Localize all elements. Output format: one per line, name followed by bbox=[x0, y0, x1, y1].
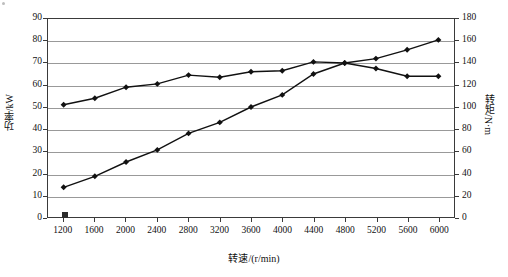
series-power bbox=[61, 37, 442, 190]
data-point-marker bbox=[342, 60, 348, 66]
data-point-marker bbox=[186, 130, 192, 136]
y2-axis-tick-label: 160 bbox=[462, 35, 492, 45]
y-axis-tick-mark bbox=[43, 218, 47, 219]
data-point-marker bbox=[435, 37, 441, 43]
y2-axis-tick-mark bbox=[455, 151, 459, 152]
data-point-marker bbox=[217, 74, 223, 80]
series-line bbox=[64, 40, 439, 187]
data-point-marker bbox=[404, 47, 410, 53]
x-axis-tick-mark bbox=[345, 218, 346, 222]
data-point-marker bbox=[123, 84, 129, 90]
chart-figure: 功率/kW 转矩/N·m 转速/(r/min) 0102030405060708… bbox=[0, 0, 508, 277]
x-axis-tick-mark bbox=[251, 218, 252, 222]
data-point-marker bbox=[279, 68, 285, 74]
y2-axis-tick-mark bbox=[455, 62, 459, 63]
y2-axis-tick-mark bbox=[455, 196, 459, 197]
corner-dot bbox=[2, 2, 5, 5]
x-axis-tick-mark bbox=[94, 218, 95, 222]
origin-square-marker bbox=[62, 212, 68, 218]
data-point-marker bbox=[61, 102, 67, 108]
y2-axis-tick-label: 180 bbox=[462, 13, 492, 23]
x-axis-tick-mark bbox=[63, 218, 64, 222]
x-axis-tick-mark bbox=[314, 218, 315, 222]
y-axis-tick-label: 70 bbox=[16, 57, 42, 67]
y-axis-tick-label: 40 bbox=[16, 124, 42, 134]
y-axis-tick-label: 50 bbox=[16, 102, 42, 112]
y2-axis-tick-label: 80 bbox=[462, 124, 492, 134]
y2-axis-tick-label: 140 bbox=[462, 57, 492, 67]
data-point-marker bbox=[373, 56, 379, 62]
y2-axis-tick-mark bbox=[455, 129, 459, 130]
data-series-layer bbox=[48, 19, 454, 217]
x-axis-tick-mark bbox=[125, 218, 126, 222]
y-axis-tick-label: 60 bbox=[16, 80, 42, 90]
y2-axis-tick-mark bbox=[455, 107, 459, 108]
data-point-marker bbox=[435, 73, 441, 79]
y2-axis-tick-label: 60 bbox=[462, 146, 492, 156]
x-axis-tick-mark bbox=[408, 218, 409, 222]
x-axis-tick-mark bbox=[157, 218, 158, 222]
data-point-marker bbox=[92, 173, 98, 179]
plot-area bbox=[47, 18, 455, 218]
y2-axis-tick-label: 0 bbox=[462, 213, 492, 223]
y-axis-title: 功率/kW bbox=[2, 94, 17, 131]
y-axis-tick-label: 0 bbox=[16, 213, 42, 223]
x-axis-tick-mark bbox=[220, 218, 221, 222]
y-axis-tick-label: 20 bbox=[16, 169, 42, 179]
series-torque bbox=[61, 59, 442, 108]
x-axis-tick-mark bbox=[439, 218, 440, 222]
data-point-marker bbox=[310, 59, 316, 65]
x-axis-title: 转速/(r/min) bbox=[0, 250, 508, 265]
data-point-marker bbox=[248, 104, 254, 110]
x-axis-tick-mark bbox=[377, 218, 378, 222]
data-point-marker bbox=[154, 81, 160, 87]
data-point-marker bbox=[404, 73, 410, 79]
y2-axis-tick-mark bbox=[455, 85, 459, 86]
y-axis-tick-label: 90 bbox=[16, 13, 42, 23]
y2-axis-tick-label: 100 bbox=[462, 102, 492, 112]
data-point-marker bbox=[186, 72, 192, 78]
x-axis-tick-mark bbox=[188, 218, 189, 222]
x-axis-tick-label: 6000 bbox=[419, 226, 459, 236]
x-axis-tick-mark bbox=[282, 218, 283, 222]
y2-axis-tick-mark bbox=[455, 18, 459, 19]
data-point-marker bbox=[373, 66, 379, 72]
y-axis-tick-label: 10 bbox=[16, 191, 42, 201]
y2-axis-tick-label: 120 bbox=[462, 80, 492, 90]
data-point-marker bbox=[123, 159, 129, 165]
data-point-marker bbox=[92, 95, 98, 101]
y2-axis-tick-mark bbox=[455, 218, 459, 219]
y-axis-tick-label: 30 bbox=[16, 146, 42, 156]
data-point-marker bbox=[248, 69, 254, 75]
data-point-marker bbox=[154, 147, 160, 153]
data-point-marker bbox=[61, 184, 67, 190]
y2-axis-tick-label: 40 bbox=[462, 169, 492, 179]
y2-axis-tick-mark bbox=[455, 40, 459, 41]
y-axis-tick-label: 80 bbox=[16, 35, 42, 45]
data-point-marker bbox=[217, 119, 223, 125]
series-line bbox=[64, 62, 439, 105]
y2-axis-tick-label: 20 bbox=[462, 191, 492, 201]
y2-axis-tick-mark bbox=[455, 174, 459, 175]
